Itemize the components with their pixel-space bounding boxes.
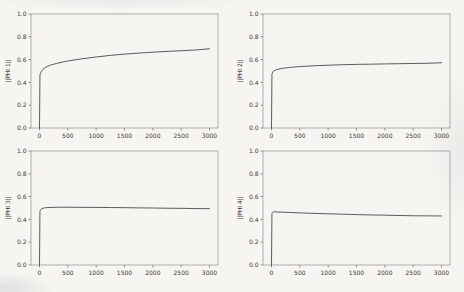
axes-frame <box>31 14 218 128</box>
y-tick-label: 1.0 <box>17 10 27 17</box>
axes-frame <box>263 14 450 128</box>
data-line <box>40 207 210 265</box>
data-line <box>272 63 442 128</box>
x-tick-label: 0 <box>270 269 274 276</box>
x-tick-label: 0 <box>38 269 42 276</box>
y-tick-label: 0.4 <box>17 79 27 86</box>
y-tick-label: 1.0 <box>249 10 259 17</box>
x-tick-label: 3000 <box>202 132 217 139</box>
x-tick-label: 1000 <box>89 132 104 139</box>
x-tick-label: 2000 <box>377 269 392 276</box>
x-tick-label: 2500 <box>406 269 421 276</box>
y-tick-label: 0.8 <box>17 170 27 177</box>
y-tick-label: 0.2 <box>17 238 27 245</box>
x-tick-label: 1000 <box>89 269 104 276</box>
x-tick-label: 500 <box>62 269 74 276</box>
data-line <box>40 49 210 128</box>
x-tick-label: 1500 <box>349 269 364 276</box>
y-tick-label: 1.0 <box>17 147 27 154</box>
y-tick-label: 0.0 <box>17 124 27 131</box>
y-tick-label: 0.8 <box>17 33 27 40</box>
figure-canvas: 0500100015002000250030000.00.20.40.60.81… <box>0 0 464 292</box>
y-tick-label: 1.0 <box>249 147 259 154</box>
x-tick-label: 0 <box>38 132 42 139</box>
x-tick-label: 2000 <box>145 269 160 276</box>
subplot-phi-2: 0500100015002000250030000.00.20.40.60.81… <box>232 0 464 146</box>
y-tick-label: 0.6 <box>17 56 27 63</box>
x-tick-label: 2000 <box>145 132 160 139</box>
x-tick-label: 2500 <box>174 132 189 139</box>
y-tick-label: 0.0 <box>249 261 259 268</box>
x-tick-label: 2000 <box>377 132 392 139</box>
y-tick-label: 0.8 <box>249 33 259 40</box>
plot-svg: 0500100015002000250030000.00.20.40.60.81… <box>232 0 464 146</box>
y-axis-label: ||PHI 1|| <box>4 59 12 83</box>
y-tick-label: 0.4 <box>249 79 259 86</box>
x-tick-label: 0 <box>270 132 274 139</box>
x-tick-label: 2500 <box>406 132 421 139</box>
x-tick-label: 3000 <box>434 132 449 139</box>
x-tick-label: 500 <box>294 132 306 139</box>
y-tick-label: 0.2 <box>17 101 27 108</box>
axes-frame <box>263 151 450 265</box>
y-tick-label: 0.8 <box>249 170 259 177</box>
subplot-phi-1: 0500100015002000250030000.00.20.40.60.81… <box>0 0 232 146</box>
y-axis-label: ||PHI 3|| <box>4 196 12 220</box>
y-tick-label: 0.6 <box>249 56 259 63</box>
y-tick-label: 0.2 <box>249 238 259 245</box>
y-axis-label: ||PHI 4|| <box>236 196 244 220</box>
x-tick-label: 1500 <box>117 269 132 276</box>
y-tick-label: 0.4 <box>17 216 27 223</box>
y-tick-label: 0.6 <box>17 193 27 200</box>
x-tick-label: 1500 <box>117 132 132 139</box>
y-axis-label: ||PHI 2|| <box>236 59 244 83</box>
plot-svg: 0500100015002000250030000.00.20.40.60.81… <box>0 0 232 146</box>
subplot-phi-4: 0500100015002000250030000.00.20.40.60.81… <box>232 146 464 292</box>
data-line <box>272 212 442 265</box>
subplot-phi-3: 0500100015002000250030000.00.20.40.60.81… <box>0 146 232 292</box>
y-tick-label: 0.6 <box>249 193 259 200</box>
y-tick-label: 0.0 <box>249 124 259 131</box>
x-tick-label: 2500 <box>174 269 189 276</box>
x-tick-label: 1000 <box>321 269 336 276</box>
x-tick-label: 1500 <box>349 132 364 139</box>
x-tick-label: 3000 <box>202 269 217 276</box>
plot-svg: 0500100015002000250030000.00.20.40.60.81… <box>0 146 232 292</box>
y-tick-label: 0.2 <box>249 101 259 108</box>
x-tick-label: 500 <box>62 132 74 139</box>
x-tick-label: 1000 <box>321 132 336 139</box>
plot-svg: 0500100015002000250030000.00.20.40.60.81… <box>232 146 464 292</box>
x-tick-label: 3000 <box>434 269 449 276</box>
y-tick-label: 0.0 <box>17 261 27 268</box>
x-tick-label: 500 <box>294 269 306 276</box>
y-tick-label: 0.4 <box>249 216 259 223</box>
